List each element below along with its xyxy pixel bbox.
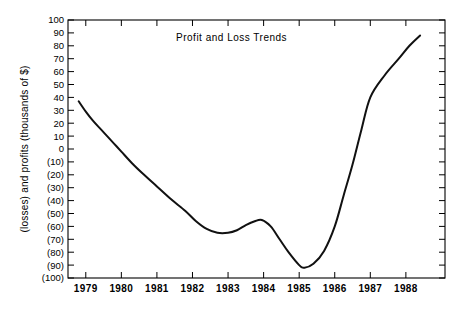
y-tick-label: (50) (47, 208, 64, 219)
y-tick-label: (60) (47, 221, 64, 232)
y-tick-label: (30) (47, 182, 64, 193)
y-tick-label: 10 (53, 131, 64, 142)
y-axis-title: (losses) and profits (thousands of $) (19, 66, 30, 233)
y-tick-label: 60 (53, 66, 64, 77)
x-tick-label: 1984 (252, 283, 276, 294)
y-tick-label: 30 (53, 105, 64, 116)
y-tick-label: (100) (42, 272, 64, 283)
y-tick-label: 80 (53, 40, 64, 51)
y-tick-label: (90) (47, 260, 64, 271)
y-tick-label: (20) (47, 169, 64, 180)
x-tick-label: 1979 (74, 283, 98, 294)
x-tick-label: 1986 (323, 283, 347, 294)
x-tick-label: 1983 (216, 283, 240, 294)
y-tick-label: 50 (53, 79, 64, 90)
y-tick-label: 20 (53, 118, 64, 129)
x-tick-label: 1981 (145, 283, 169, 294)
x-tick-label: 1982 (181, 283, 205, 294)
chart-figure: 1009080706050403020100(10)(20)(30)(40)(5… (0, 0, 471, 311)
x-tick-label: 1987 (358, 283, 382, 294)
chart-title: Profit and Loss Trends (176, 32, 287, 43)
y-tick-label: (70) (47, 234, 64, 245)
x-tick-label: 1988 (394, 283, 418, 294)
y-tick-label: 70 (53, 53, 64, 64)
y-tick-label: (40) (47, 195, 64, 206)
chart-background (0, 0, 471, 311)
x-tick-label: 1985 (287, 283, 311, 294)
y-tick-label: 100 (48, 14, 64, 25)
y-tick-label: (10) (47, 156, 64, 167)
y-tick-label: (80) (47, 247, 64, 258)
y-tick-label: 90 (53, 27, 64, 38)
y-tick-label: 40 (53, 92, 64, 103)
y-tick-label: 0 (59, 143, 64, 154)
profit-loss-line-chart: 1009080706050403020100(10)(20)(30)(40)(5… (0, 0, 471, 311)
x-tick-label: 1980 (109, 283, 133, 294)
